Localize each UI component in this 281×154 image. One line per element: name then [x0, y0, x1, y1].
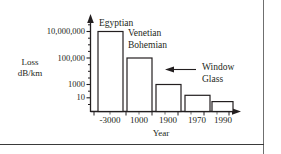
annotation-window: Window [202, 62, 234, 74]
y-tick-label-1000: 1000 [28, 80, 85, 89]
y-axis-arrowhead [87, 14, 94, 23]
annotation-glass: Glass [202, 74, 223, 86]
window-glass-annotation-arrow [165, 66, 196, 72]
annotation-bohemian: Bohemian [128, 40, 167, 52]
bar-1970 [185, 95, 210, 111]
bar-1900 [156, 85, 181, 112]
bar-3000 [98, 32, 123, 112]
chart-figure: 10,000,000 100,000 1000 10 Loss dB/km -3… [0, 0, 281, 154]
bar-1000 [127, 58, 152, 112]
x-axis-title: Year [135, 129, 187, 139]
x-tick-label-1990: 1990 [197, 116, 249, 126]
annotation-venetian: Venetian [128, 28, 161, 40]
annotation-egyptian: Egyptian [99, 18, 133, 28]
y-axis-title-line2: dB/km [9, 68, 51, 79]
y-axis-title-line1: Loss [9, 57, 51, 68]
y-tick-label-10: 10 [28, 93, 85, 102]
bar-1990 [212, 102, 233, 112]
y-tick-label-10000000: 10,000,000 [28, 27, 85, 36]
